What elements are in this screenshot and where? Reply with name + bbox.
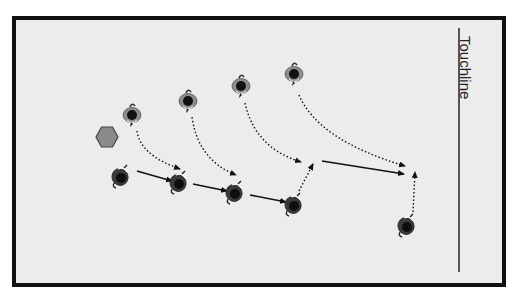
pass-arrow-solid <box>193 184 227 191</box>
pass-arrow-solid <box>137 171 172 181</box>
defender-player-icon <box>396 214 417 237</box>
attacker-player-icon <box>285 63 303 86</box>
attacker-player-icon <box>232 75 250 98</box>
run-arrow-dotted <box>192 117 236 175</box>
run-arrow-dotted <box>137 131 180 169</box>
drill-diagram <box>0 0 517 300</box>
cone-marker <box>96 127 118 147</box>
defender-player-icon <box>224 181 245 204</box>
run-arrow-dotted <box>413 172 415 212</box>
defender-player-icon <box>168 171 189 194</box>
player-runs <box>137 95 415 212</box>
attacker-player-icon <box>179 90 197 113</box>
hexagon-cone-icon <box>96 127 118 147</box>
attacker-player-icon <box>123 104 141 127</box>
defender-player-icon <box>110 165 131 188</box>
run-arrow-dotted <box>245 103 301 162</box>
touchline-label: Touchline <box>457 36 474 99</box>
players <box>110 63 417 237</box>
run-arrow-dotted <box>299 164 313 191</box>
defender-player-icon <box>283 193 304 216</box>
run-arrow-dotted <box>299 95 405 166</box>
pass-arrow-solid <box>322 161 404 174</box>
pass-arrow-solid <box>250 195 286 202</box>
